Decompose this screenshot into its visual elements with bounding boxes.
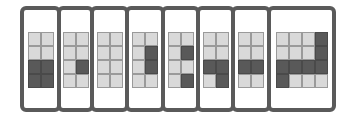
dark-cell xyxy=(238,60,251,74)
light-cell xyxy=(168,46,181,60)
light-cell xyxy=(302,74,315,88)
light-cell xyxy=(41,32,54,46)
light-cell xyxy=(145,32,158,46)
light-cell xyxy=(216,32,229,46)
dark-cell xyxy=(203,60,216,74)
grid-panel-7 xyxy=(231,6,271,112)
grid-panel-5 xyxy=(161,6,200,112)
grid-panel-6 xyxy=(196,6,235,112)
dark-cell xyxy=(41,60,54,74)
light-cell xyxy=(251,46,264,60)
grid-panel-8 xyxy=(267,6,336,112)
dark-cell xyxy=(315,46,328,60)
dark-cell xyxy=(315,32,328,46)
dark-cell xyxy=(216,74,229,88)
light-cell xyxy=(97,74,110,88)
grid-panel-2 xyxy=(57,6,94,112)
light-cell xyxy=(97,60,110,74)
light-cell xyxy=(289,32,302,46)
light-cell xyxy=(168,60,181,74)
light-cell xyxy=(132,60,145,74)
light-cell xyxy=(63,60,76,74)
light-cell xyxy=(97,46,110,60)
cell-grid xyxy=(276,32,328,88)
dark-cell xyxy=(251,60,264,74)
light-cell xyxy=(28,46,41,60)
cell-grid xyxy=(97,32,123,88)
dark-cell xyxy=(145,60,158,74)
dark-cell xyxy=(276,60,289,74)
light-cell xyxy=(238,46,251,60)
grid-panel-1 xyxy=(20,6,61,112)
dark-cell xyxy=(181,46,194,60)
light-cell xyxy=(203,74,216,88)
light-cell xyxy=(276,46,289,60)
light-cell xyxy=(251,74,264,88)
light-cell xyxy=(110,74,123,88)
light-cell xyxy=(76,74,89,88)
light-cell xyxy=(110,60,123,74)
light-cell xyxy=(203,46,216,60)
light-cell xyxy=(63,74,76,88)
dark-cell xyxy=(276,74,289,88)
light-cell xyxy=(181,32,194,46)
light-cell xyxy=(238,32,251,46)
light-cell xyxy=(76,46,89,60)
light-cell xyxy=(238,74,251,88)
light-cell xyxy=(110,46,123,60)
dark-cell xyxy=(76,60,89,74)
light-cell xyxy=(41,46,54,60)
dark-cell xyxy=(28,60,41,74)
light-cell xyxy=(28,32,41,46)
dark-cell xyxy=(289,60,302,74)
light-cell xyxy=(251,32,264,46)
panel-strip xyxy=(20,6,336,112)
light-cell xyxy=(110,32,123,46)
cell-grid xyxy=(238,32,264,88)
light-cell xyxy=(302,32,315,46)
light-cell xyxy=(315,74,328,88)
light-cell xyxy=(276,32,289,46)
dark-cell xyxy=(302,60,315,74)
light-cell xyxy=(132,46,145,60)
light-cell xyxy=(132,32,145,46)
light-cell xyxy=(302,46,315,60)
grid-panel-3 xyxy=(90,6,129,112)
light-cell xyxy=(132,74,145,88)
light-cell xyxy=(97,32,110,46)
dark-cell xyxy=(28,74,41,88)
light-cell xyxy=(63,32,76,46)
dark-cell xyxy=(181,74,194,88)
cell-grid xyxy=(203,32,229,88)
cell-grid xyxy=(63,32,89,88)
light-cell xyxy=(145,74,158,88)
light-cell xyxy=(168,74,181,88)
dark-cell xyxy=(145,46,158,60)
dark-cell xyxy=(41,74,54,88)
light-cell xyxy=(289,74,302,88)
light-cell xyxy=(76,32,89,46)
cell-grid xyxy=(132,32,158,88)
dark-cell xyxy=(216,60,229,74)
light-cell xyxy=(203,32,216,46)
light-cell xyxy=(63,46,76,60)
light-cell xyxy=(216,46,229,60)
grid-panel-4 xyxy=(125,6,165,112)
cell-grid xyxy=(28,32,54,88)
light-cell xyxy=(289,46,302,60)
cell-grid xyxy=(168,32,194,88)
light-cell xyxy=(181,60,194,74)
light-cell xyxy=(168,32,181,46)
dark-cell xyxy=(315,60,328,74)
